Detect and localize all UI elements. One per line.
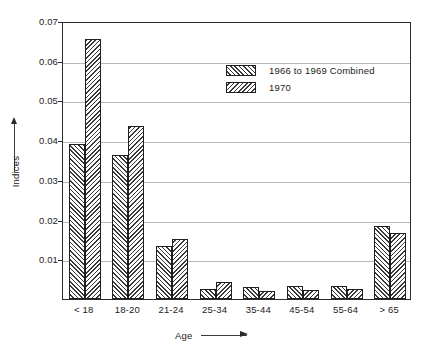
y-axis-tick-mark: [58, 62, 62, 63]
x-axis-tick-label: < 18: [62, 304, 106, 315]
legend-swatch: [226, 65, 256, 76]
bar: [200, 289, 216, 299]
bar-group: [156, 23, 188, 299]
y-axis-tick-label: 0.06: [24, 57, 58, 67]
y-axis-tick-label: 0.01: [24, 255, 58, 265]
x-axis-tick-label: 21-24: [149, 304, 193, 315]
legend-item: 1966 to 1969 Combined: [226, 62, 404, 79]
y-axis-title-group: Indices: [2, 120, 24, 240]
y-axis-tick-mark: [58, 260, 62, 261]
bar: [85, 39, 101, 299]
legend-swatch: [226, 82, 256, 93]
y-axis-tick-label: 0.07: [24, 17, 58, 27]
x-axis-arrow-icon: [201, 335, 247, 336]
x-axis-tick-label: 45-54: [280, 304, 324, 315]
bar: [331, 286, 347, 299]
bar: [259, 291, 275, 299]
x-axis-tick-label: 35-44: [237, 304, 281, 315]
x-axis-tick-label: 25-34: [193, 304, 237, 315]
y-axis-tick-mark: [58, 221, 62, 222]
bar: [287, 286, 303, 299]
bar-group: [112, 23, 144, 299]
x-axis-tick-label: 55-64: [324, 304, 368, 315]
bar: [172, 239, 188, 299]
x-axis-title: Age: [175, 330, 193, 341]
y-axis-title: Indices: [10, 129, 21, 215]
bar-chart-figure: Indices 0.010.020.030.040.050.060.07 196…: [0, 0, 437, 356]
legend-item: 1970: [226, 79, 404, 96]
bar: [374, 226, 390, 299]
bar: [128, 126, 144, 299]
bar: [112, 155, 128, 299]
y-axis-tick-mark: [58, 101, 62, 102]
y-axis-tick-mark: [58, 141, 62, 142]
bar: [216, 282, 232, 299]
x-axis-tick-label: 18-20: [106, 304, 150, 315]
y-axis-tick-label: 0.02: [24, 216, 58, 226]
y-axis-tick-label: 0.04: [24, 136, 58, 146]
bar: [69, 144, 85, 299]
x-axis-tick-labels: < 1818-2021-2425-3435-4445-5455-64> 65: [62, 304, 411, 318]
y-axis-tick-labels: 0.010.020.030.040.050.060.07: [22, 0, 58, 356]
legend-label: 1970: [269, 82, 291, 93]
x-axis-title-group: Age: [175, 328, 247, 342]
bar: [390, 233, 406, 299]
y-axis-tick-mark: [58, 22, 62, 23]
bar: [347, 289, 363, 299]
y-axis-tick-label: 0.03: [24, 176, 58, 186]
y-axis-tick-mark: [58, 181, 62, 182]
bar: [156, 246, 172, 299]
plot-area: 1966 to 1969 Combined1970: [62, 22, 411, 300]
legend: 1966 to 1969 Combined1970: [226, 59, 404, 100]
x-axis-tick-label: > 65: [367, 304, 411, 315]
bar: [303, 290, 319, 299]
legend-label: 1966 to 1969 Combined: [269, 65, 375, 76]
bar-group: [69, 23, 101, 299]
bar: [243, 287, 259, 299]
y-axis-tick-label: 0.05: [24, 96, 58, 106]
